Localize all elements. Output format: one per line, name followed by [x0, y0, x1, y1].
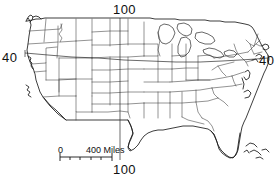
parallel-label-right: 40: [259, 54, 274, 67]
meridian-label-top: 100: [113, 3, 136, 16]
meridian-label-bottom: 100: [113, 163, 136, 176]
scale-bar-max-label: 400 Miles: [86, 146, 125, 155]
state-boundaries: [28, 19, 264, 131]
scale-bar-zero-label: 0: [58, 146, 63, 155]
national-outline: [26, 15, 269, 159]
map-canvas: [0, 0, 280, 178]
map-figure: 100 100 40 40 0 400 Miles: [0, 0, 280, 178]
great-lakes: [158, 23, 237, 58]
parallel-label-left: 40: [2, 51, 17, 64]
